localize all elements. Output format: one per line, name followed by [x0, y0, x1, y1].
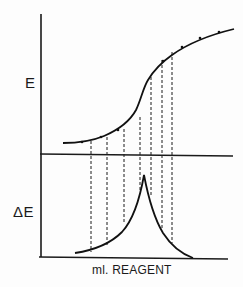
- x-axis: [39, 257, 228, 259]
- titration-figure: E ΔE ml. REAGENT: [0, 0, 243, 287]
- chart-canvas: [0, 0, 243, 287]
- x-axis-label: ml. REAGENT: [92, 263, 172, 277]
- y-axis-label-delta-e: ΔE: [13, 203, 34, 220]
- e-titration-curve: [63, 29, 234, 143]
- panel-divider: [40, 154, 233, 156]
- y-axis-label-e: E: [25, 74, 35, 91]
- delta-e-derivative-curve: [75, 175, 193, 258]
- dashed-projection-lines: [91, 52, 172, 252]
